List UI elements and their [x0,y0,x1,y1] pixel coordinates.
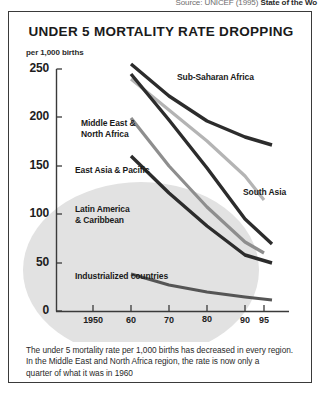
x-tick-label: 60 [113,315,149,325]
series-label-south-asia: South Asia [243,187,286,198]
x-tick-label: 80 [189,314,225,324]
series-label-line2: & Caribbean [75,215,130,226]
y-tick-label: 100 [13,206,49,220]
source-prefix: Source: UNICEF (1995) [175,0,260,7]
caption-line-2: In the Middle East and North Africa regi… [26,356,302,367]
y-tick-label: 0 [13,303,49,317]
x-tick-label: 70 [151,315,187,325]
chart-svg [9,12,313,342]
series-label-sub-saharan-africa: Sub-Saharan Africa [177,72,254,83]
source-credit: Source: UNICEF (1995) State of the Wo [0,0,321,7]
chart-page: Source: UNICEF (1995) State of the Wo UN… [0,0,321,394]
series-label-line2: North Africa [81,129,135,140]
caption-line-3: quarter of what it was in 1960 [26,368,302,379]
series-label-latin-america-caribbean: Latin America & Caribbean [75,204,130,225]
series-label-line1: Middle East & [81,118,135,129]
chart-caption: The under 5 mortality rate per 1,000 bir… [26,345,302,379]
series-label-middle-east-north-africa: Middle East & North Africa [81,118,135,139]
y-tick-label: 200 [13,109,49,123]
y-tick-label: 150 [13,158,49,172]
x-tick-label: 1950 [73,315,113,325]
series-label-east-asia-pacific: East Asia & Pacific [75,165,149,176]
plot-area: 250 200 150 100 50 0 1950 60 70 80 90 95… [9,12,313,342]
x-tick-label: 95 [246,315,282,325]
source-emphasis: State of the Wo [260,0,317,7]
y-tick-label: 250 [13,61,49,75]
series-label-line1: Latin America [75,204,130,215]
series-label-industrialized-countries: Industrialized countries [75,271,168,282]
y-tick-label: 50 [13,255,49,269]
caption-line-1: The under 5 mortality rate per 1,000 bir… [26,345,302,356]
chart-panel: UNDER 5 MORTALITY RATE DROPPING per 1,00… [8,11,312,383]
